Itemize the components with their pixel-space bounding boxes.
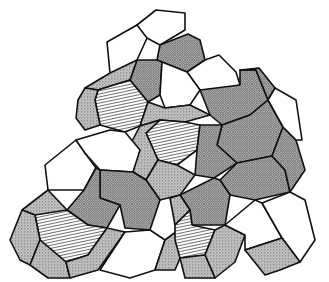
- dodecahedra-cluster-diagram: [0, 0, 329, 282]
- face-stipple: [76, 88, 100, 130]
- polyhedron-faces: [10, 10, 315, 278]
